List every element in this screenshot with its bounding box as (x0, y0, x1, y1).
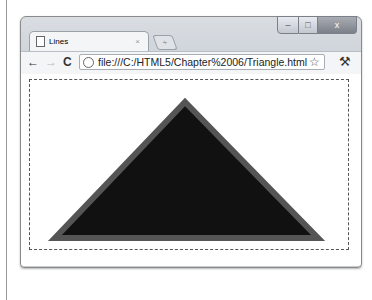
triangle-shape (55, 102, 318, 238)
triangle-drawing (0, 0, 372, 300)
